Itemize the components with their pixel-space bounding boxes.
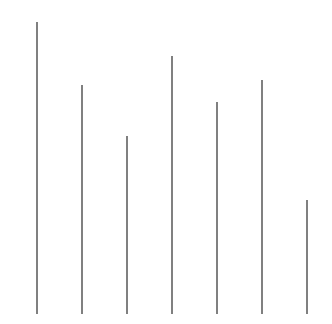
bar xyxy=(81,85,83,314)
bar xyxy=(216,102,218,314)
bar xyxy=(171,56,173,314)
plot-area xyxy=(0,0,332,324)
bar-chart xyxy=(0,0,332,324)
bar xyxy=(261,80,263,314)
bar xyxy=(306,200,308,314)
bar xyxy=(36,22,38,314)
bar xyxy=(126,136,128,314)
